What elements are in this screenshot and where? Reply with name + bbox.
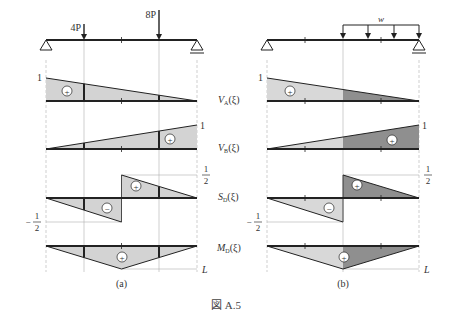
label-va: VA(ξ) (218, 94, 240, 106)
svg-text:1: 1 (256, 211, 261, 221)
panel-a: 4P 8P 1 + 1 + (25, 9, 210, 290)
label-sd: SD(ξ) (218, 191, 238, 203)
figure-a5: 4P 8P 1 + 1 + (0, 0, 453, 324)
value-label-1: 1 (422, 120, 427, 131)
load-label-4p: 4P (70, 22, 81, 33)
load-label-w: w (378, 14, 384, 24)
panel-label-a: (a) (116, 278, 127, 290)
svg-text:2: 2 (204, 176, 209, 186)
svg-text:−: − (246, 217, 251, 227)
arrow-down-icon (391, 33, 397, 39)
guide-lines-a (46, 40, 197, 272)
load-label-8p: 8P (145, 9, 156, 20)
svg-text:−: − (104, 204, 109, 214)
svg-text:+: + (119, 253, 124, 263)
value-label-1: 1 (37, 72, 42, 83)
arrow-down-icon (340, 33, 346, 39)
panel-label-b: (b) (337, 278, 349, 290)
svg-text:+: + (287, 87, 292, 97)
point-load-4p: 4P (70, 22, 87, 40)
svg-text:+: + (64, 87, 69, 97)
svg-text:1: 1 (35, 211, 40, 221)
distributed-load-w: w (340, 14, 422, 39)
value-label-L: L (423, 264, 430, 275)
svg-text:1: 1 (204, 164, 209, 174)
value-label-L: L (201, 264, 208, 275)
label-md: MD(ξ) (216, 242, 241, 254)
roller-support-icon (191, 40, 203, 50)
value-label-1: 1 (200, 120, 205, 131)
influence-md-b: + L (267, 243, 430, 275)
pin-support-icon (261, 40, 273, 50)
influence-md-a: + L (46, 243, 208, 275)
row-labels: VA(ξ) VB(ξ) SD(ξ) MD(ξ) (216, 94, 241, 254)
arrow-down-icon (416, 33, 422, 39)
svg-text:+: + (167, 135, 172, 145)
svg-text:+: + (133, 182, 138, 192)
pin-support-icon (40, 40, 52, 50)
fraction-half-positive: 1 2 (202, 164, 210, 186)
influence-vb-a: 1 + (46, 120, 205, 152)
svg-text:+: + (389, 136, 394, 146)
svg-text:+: + (341, 253, 346, 263)
figure-caption: 図 A.5 (211, 299, 241, 311)
fraction-half-negative: − 1 2 (246, 211, 262, 233)
influence-sd-a: − + 1 2 − 1 2 (25, 164, 210, 233)
svg-text:−: − (25, 217, 30, 227)
influence-sd-b: − + 1 2 − 1 2 (246, 164, 432, 233)
fraction-half-negative: − 1 2 (25, 211, 41, 233)
svg-text:−: − (326, 204, 331, 214)
value-label-1: 1 (258, 72, 263, 83)
svg-text:2: 2 (35, 223, 40, 233)
svg-text:+: + (354, 181, 359, 191)
label-vb: VB(ξ) (218, 142, 239, 154)
influence-va-a: 1 + (37, 72, 197, 104)
guide-lines-b (267, 40, 419, 272)
svg-text:2: 2 (256, 223, 261, 233)
svg-text:1: 1 (426, 164, 431, 174)
panel-b: w 1 + 1 + (246, 14, 432, 290)
svg-text:2: 2 (426, 176, 431, 186)
roller-support-icon (413, 40, 425, 50)
influence-va-b: 1 + (258, 72, 419, 104)
influence-vb-b: 1 + (267, 120, 427, 152)
arrow-down-icon (365, 33, 371, 39)
fraction-half-positive: 1 2 (424, 164, 432, 186)
point-load-8p: 8P (145, 9, 162, 40)
